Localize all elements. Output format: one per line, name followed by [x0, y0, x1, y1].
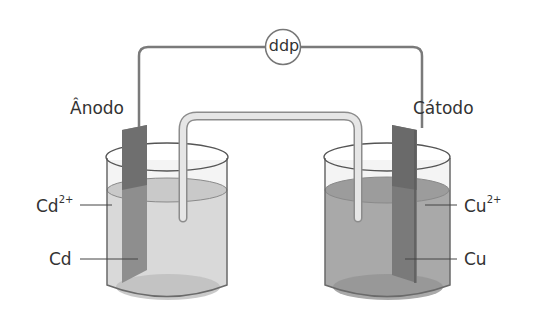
cd-electrode-label: Cd — [49, 251, 72, 268]
voltmeter-label: ddp — [266, 36, 302, 55]
cu-ion-label: Cu2+ — [464, 197, 501, 215]
cathode-beaker — [324, 143, 450, 300]
anode-label: Ânodo — [70, 100, 124, 117]
cd-ion-label: Cd2+ — [36, 197, 73, 215]
cathode-label: Cátodo — [413, 100, 474, 117]
cu-electrode-label: Cu — [464, 251, 487, 268]
